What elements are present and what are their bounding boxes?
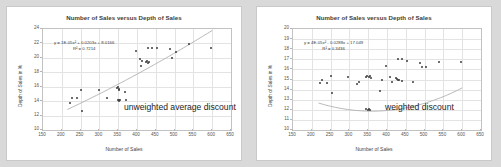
x-tick-mark (174, 129, 175, 131)
y-tick-label-weighted: 13 (273, 96, 289, 101)
y-tick-mark (290, 58, 292, 59)
data-point (381, 79, 383, 81)
chart-panel-unweighted: Number of Sales versus Depth of Sales De… (6, 6, 242, 161)
x-tick-mark (42, 129, 43, 131)
y-tick-mark (290, 79, 292, 80)
y-tick-label-weighted: 10 (273, 126, 289, 131)
y-tick-mark (290, 129, 292, 130)
y-tick-label-unweighted: 24 (23, 25, 39, 30)
chart-panel-weighted: Number of Sales versus Depth of Sales De… (256, 6, 492, 161)
r-squared-line: R² = 0.7214 (54, 46, 114, 52)
data-point (356, 83, 358, 85)
data-point (118, 89, 120, 91)
x-tick-mark (136, 129, 137, 131)
y-tick-mark (290, 68, 292, 69)
data-point (125, 99, 127, 101)
x-tick-mark (386, 129, 387, 131)
y-tick-label-unweighted: 16 (23, 83, 39, 88)
data-point (391, 81, 393, 83)
y-tick-mark (40, 42, 42, 43)
y-tick-label-weighted: 11 (273, 116, 289, 121)
x-axis-title-unweighted: Number of Sales (7, 146, 241, 152)
data-point (438, 61, 440, 63)
trendline-equation-unweighted: y = 1E-05x² + 0.0203x + 8.0166R² = 0.721… (54, 40, 114, 52)
y-tick-label-weighted: 18 (273, 46, 289, 51)
x-tick-mark (311, 129, 312, 131)
x-tick-mark (367, 129, 368, 131)
y-tick-label-weighted: 14 (273, 86, 289, 91)
x-tick-mark (480, 129, 481, 131)
x-axis-title-weighted: Number of Sales (257, 146, 491, 152)
data-point (171, 57, 173, 59)
y-tick-label-unweighted: 12 (23, 112, 39, 117)
x-tick-label-weighted: 650 (469, 132, 491, 137)
data-point (118, 99, 120, 101)
data-point (156, 47, 158, 49)
y-tick-label-weighted: 12 (273, 106, 289, 111)
data-point (358, 81, 360, 83)
y-tick-mark (290, 38, 292, 39)
y-tick-mark (290, 28, 292, 29)
x-tick-mark (211, 129, 212, 131)
data-point (379, 90, 381, 92)
data-point (141, 60, 143, 62)
chart-title-weighted: Number of Sales versus Depth of Sales (257, 14, 491, 21)
x-tick-mark (230, 129, 231, 131)
x-tick-mark (405, 129, 406, 131)
y-tick-mark (290, 119, 292, 120)
y-tick-mark (40, 57, 42, 58)
x-tick-mark (442, 129, 443, 131)
y-tick-mark (290, 89, 292, 90)
y-tick-label-unweighted: 20 (23, 54, 39, 59)
x-tick-mark (117, 129, 118, 131)
y-tick-mark (40, 100, 42, 101)
data-point (106, 97, 108, 99)
x-tick-mark (330, 129, 331, 131)
x-tick-mark (98, 129, 99, 131)
y-tick-mark (290, 109, 292, 110)
data-point (425, 66, 427, 68)
y-tick-label-weighted: 17 (273, 56, 289, 61)
y-tick-mark (290, 48, 292, 49)
y-tick-mark (40, 86, 42, 87)
y-tick-label-weighted: 19 (273, 36, 289, 41)
data-point (80, 89, 82, 91)
x-tick-mark (61, 129, 62, 131)
trendline-equation-weighted: y = 4E-05x² - 0.0288x + 17.049R² = 0.343… (304, 40, 363, 52)
chart-title-unweighted: Number of Sales versus Depth of Sales (7, 14, 241, 21)
r-squared-line: R² = 0.3436 (304, 46, 363, 52)
annotation-weighted: weighted discount (385, 102, 454, 112)
data-point (147, 47, 149, 49)
y-tick-mark (40, 129, 42, 130)
y-tick-mark (40, 115, 42, 116)
y-tick-label-unweighted: 14 (23, 98, 39, 103)
y-tick-label-weighted: 16 (273, 66, 289, 71)
data-point (140, 65, 142, 67)
x-tick-label-unweighted: 650 (219, 132, 241, 137)
data-point (406, 60, 408, 62)
data-point (69, 102, 71, 104)
x-tick-mark (348, 129, 349, 131)
annotation-unweighted: unweighted average discount (124, 102, 236, 112)
figure-container: Number of Sales versus Depth of Sales De… (0, 0, 501, 167)
y-tick-label-weighted: 20 (273, 25, 289, 30)
data-point (331, 92, 333, 94)
data-point (326, 82, 328, 84)
y-tick-mark (40, 28, 42, 29)
y-tick-label-unweighted: 10 (23, 126, 39, 131)
x-tick-mark (192, 129, 193, 131)
x-tick-mark (80, 129, 81, 131)
x-tick-mark (424, 129, 425, 131)
x-tick-mark (155, 129, 156, 131)
y-tick-mark (290, 99, 292, 100)
x-tick-mark (461, 129, 462, 131)
y-tick-label-unweighted: 18 (23, 69, 39, 74)
y-tick-mark (40, 71, 42, 72)
y-tick-label-weighted: 15 (273, 76, 289, 81)
data-point (124, 91, 126, 93)
y-tick-label-unweighted: 22 (23, 40, 39, 45)
x-tick-mark (292, 129, 293, 131)
